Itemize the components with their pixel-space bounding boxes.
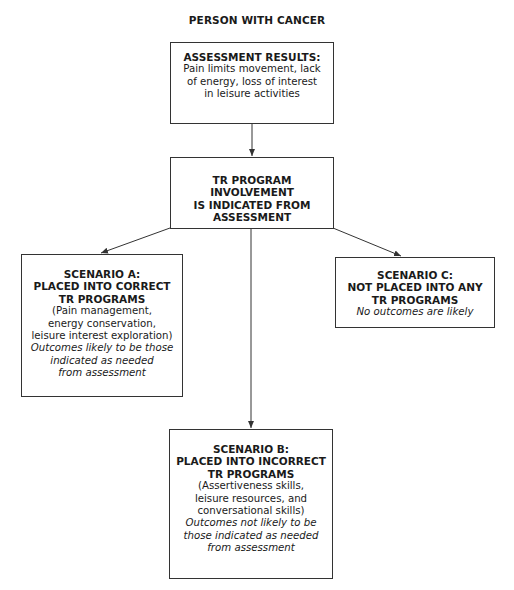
edge-involvement-to-scenario-c xyxy=(333,228,401,256)
node-body: leisure interest exploration) xyxy=(22,330,182,342)
node-heading: PLACED INTO CORRECT xyxy=(22,280,182,292)
node-body: of energy, loss of interest xyxy=(171,76,333,88)
node-note: those indicated as needed xyxy=(170,530,332,542)
node-body: (Pain management, xyxy=(22,305,182,317)
node-heading: SCENARIO C: xyxy=(336,269,494,281)
node-heading: ASSESSMENT xyxy=(171,211,333,223)
edge-involvement-to-scenario-a xyxy=(101,228,170,253)
node-note: Outcomes not likely to be xyxy=(170,517,332,529)
scenario-b-node: SCENARIO B: PLACED INTO INCORRECT TR PRO… xyxy=(169,429,333,579)
node-heading: TR PROGRAM INVOLVEMENT xyxy=(171,174,333,199)
node-note: from assessment xyxy=(22,367,182,379)
node-heading: SCENARIO A: xyxy=(22,268,182,280)
node-note: No outcomes are likely xyxy=(336,306,494,318)
scenario-a-node: SCENARIO A: PLACED INTO CORRECT TR PROGR… xyxy=(21,254,183,397)
node-heading: TR PROGRAMS xyxy=(22,293,182,305)
assessment-results-node: ASSESSMENT RESULTS: Pain limits movement… xyxy=(170,42,334,124)
node-note: Outcomes likely to be those xyxy=(22,342,182,354)
scenario-c-node: SCENARIO C: NOT PLACED INTO ANY TR PROGR… xyxy=(335,257,495,328)
node-heading: PLACED INTO INCORRECT xyxy=(170,455,332,467)
node-note: from assessment xyxy=(170,542,332,554)
node-note: indicated as needed xyxy=(22,355,182,367)
node-body: energy conservation, xyxy=(22,318,182,330)
node-heading: ASSESSMENT RESULTS: xyxy=(171,51,333,63)
node-body: in leisure activities xyxy=(171,88,333,100)
node-body: (Assertiveness skills, xyxy=(170,480,332,492)
node-heading: SCENARIO B: xyxy=(170,443,332,455)
node-heading: TR PROGRAMS xyxy=(336,294,494,306)
node-heading: NOT PLACED INTO ANY xyxy=(336,281,494,293)
node-heading: IS INDICATED FROM xyxy=(171,199,333,211)
node-body: conversational skills) xyxy=(170,505,332,517)
node-body: leisure resources, and xyxy=(170,493,332,505)
tr-program-involvement-node: TR PROGRAM INVOLVEMENT IS INDICATED FROM… xyxy=(170,157,334,229)
node-body: Pain limits movement, lack xyxy=(171,63,333,75)
node-heading: TR PROGRAMS xyxy=(170,468,332,480)
